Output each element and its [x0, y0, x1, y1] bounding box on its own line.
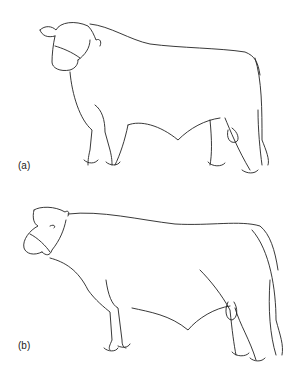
figure-a: (a) [0, 0, 302, 190]
figure-b: (b) [0, 190, 302, 380]
bull-b-drawing [0, 190, 302, 380]
figure-label-b: (b) [18, 340, 30, 351]
figure-label-a: (a) [18, 160, 30, 171]
bull-a-drawing [0, 0, 302, 190]
